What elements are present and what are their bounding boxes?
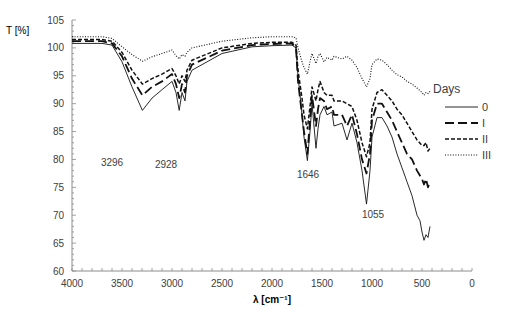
peak-label-1055: 1055: [362, 209, 385, 220]
y-tick-label: 100: [47, 42, 64, 53]
x-tick-label: 3500: [111, 278, 134, 289]
y-axis-title: T [%]: [6, 25, 29, 36]
x-tick-label: 3000: [161, 278, 184, 289]
y-axis: 6065707580859095100105: [47, 15, 76, 277]
y-tick-label: 65: [53, 238, 65, 249]
x-tick-label: 2500: [211, 278, 234, 289]
x-axis: 40003500300025002000150010005000: [61, 268, 475, 289]
legend-label-day-0: 0: [482, 101, 488, 113]
y-tick-label: 60: [53, 266, 65, 277]
y-tick-label: 95: [53, 70, 65, 81]
legend-label-day-II: II: [482, 133, 488, 145]
x-axis-title: λ [cm⁻¹]: [253, 294, 291, 305]
x-tick-label: 1500: [311, 278, 334, 289]
legend-label-day-I: I: [482, 117, 485, 129]
peak-label-3296: 3296: [101, 157, 124, 168]
y-tick-label: 85: [53, 126, 65, 137]
x-tick-label: 4000: [61, 278, 84, 289]
peak-label-2928: 2928: [155, 159, 178, 170]
series-line-day-II: [72, 40, 430, 157]
y-tick-label: 90: [53, 98, 65, 109]
series-line-day-I: [72, 41, 430, 187]
y-tick-label: 80: [53, 154, 65, 165]
x-tick-label: 500: [414, 278, 431, 289]
legend-title: Days: [433, 82, 460, 96]
x-tick-label: 1000: [361, 278, 384, 289]
x-tick-label: 0: [469, 278, 475, 289]
x-tick-label: 2000: [261, 278, 284, 289]
y-tick-label: 105: [47, 15, 64, 26]
ftir-spectrum-chart: 6065707580859095100105 40003500300025002…: [0, 0, 505, 319]
y-tick-label: 75: [53, 182, 65, 193]
legend-label-day-III: III: [482, 149, 491, 161]
peak-annotations: 3296292816461055: [101, 157, 385, 220]
peak-label-1646: 1646: [297, 169, 320, 180]
legend: Days 0IIIIII: [433, 82, 491, 161]
y-tick-label: 70: [53, 210, 65, 221]
